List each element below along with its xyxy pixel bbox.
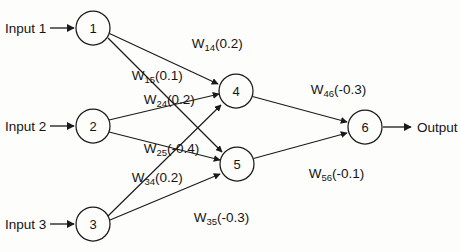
edge-3-4 xyxy=(108,105,221,216)
input-arrows xyxy=(50,28,74,224)
node-4-label: 4 xyxy=(232,84,239,99)
input-label-2: Input 2 xyxy=(5,119,46,134)
network-graph-svg: 1 2 3 4 5 6 Input 1 Input 2 Input 3 Outp… xyxy=(0,0,460,252)
input-label-3: Input 3 xyxy=(5,217,46,232)
weight-label-w25: W25(-0.4) xyxy=(110,141,226,158)
weight-label-w14: W14(0.2) xyxy=(158,36,269,53)
weight-label-w34: W34(0.2) xyxy=(98,170,209,187)
node-6-label: 6 xyxy=(361,120,368,135)
edge-5-6 xyxy=(254,133,348,159)
weight-label-w24: W24(0.2) xyxy=(110,92,221,109)
input-label-1: Input 1 xyxy=(5,21,46,36)
weight-label-w35: W35(-0.3) xyxy=(160,210,276,227)
weight-label-w56: W56(-0.1) xyxy=(275,166,391,183)
output-label: Output xyxy=(417,120,458,135)
edge-4-6 xyxy=(253,97,348,123)
weight-label-w46: W46(-0.3) xyxy=(277,82,393,99)
node-2-label: 2 xyxy=(89,119,96,134)
connection-edges xyxy=(108,34,347,221)
weight-label-w15: W15(0.1) xyxy=(98,68,209,85)
node-5-label: 5 xyxy=(233,157,240,172)
node-3-label: 3 xyxy=(89,217,96,232)
node-1-label: 1 xyxy=(89,21,96,36)
neural-network-diagram: 1 2 3 4 5 6 Input 1 Input 2 Input 3 Outp… xyxy=(0,0,460,252)
